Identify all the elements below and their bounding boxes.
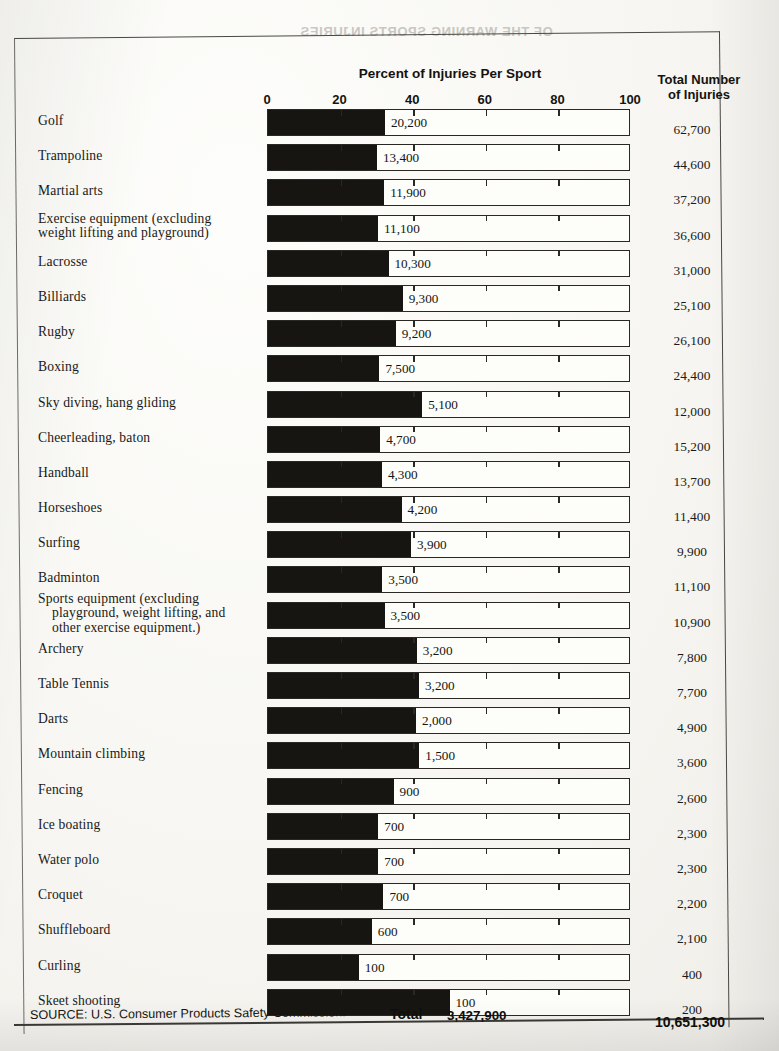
grid-tick [341,109,342,116]
total-injuries-value: 11,100 [632,579,752,595]
chart-row: Mountain climbing1,5003,600 [0,741,779,776]
category-label: Curling [38,959,253,974]
bar-fill [268,110,385,135]
grid-tick [486,531,487,538]
category-label: Table Tennis [38,677,253,692]
category-label: Horseshoes [38,501,253,516]
grid-tick [486,250,487,257]
percent-column-header: Percent of Injuries Per Sport [268,66,632,81]
category-label-line: playground, weight lifting, and [38,606,253,621]
total-header-line1: Total Number [634,72,764,87]
grid-tick [486,461,487,468]
chart-row: Fencing9002,600 [0,777,779,812]
bar-fill [268,743,419,768]
grid-tick [558,637,559,644]
grid-tick [341,426,342,433]
bar-value-label: 4,200 [408,502,438,518]
total-injuries-value: 11,400 [632,509,752,525]
bar-fill [268,638,417,663]
category-label-line: Badminton [38,571,253,586]
total-row-label: Total [390,1006,422,1022]
chart-row: Martial arts11,90037,200 [0,178,779,213]
grid-tick [413,989,414,996]
bar-track: 9,200 [267,320,630,347]
bar-fill [268,356,379,381]
bar-value-label: 3,200 [423,643,453,659]
total-injuries-value: 2,300 [632,826,752,842]
grid-tick [558,778,559,785]
category-label: Martial arts [38,184,253,199]
grid-tick [413,954,414,961]
chart-rows: Golf20,20062,700Trampoline13,40044,600Ma… [0,108,779,1023]
total-percent-injuries-value: 3,427,900 [447,1008,507,1023]
grid-tick [413,637,414,644]
bar-value-label: 20,200 [391,115,427,131]
grid-tick [486,989,487,996]
bar-fill [268,849,378,874]
grid-tick [558,672,559,679]
bar-fill [268,884,383,909]
chart-row: Golf20,20062,700 [0,108,779,143]
total-injuries-value: 3,600 [632,755,752,771]
total-injuries-value: 12,000 [632,404,752,420]
x-axis-tick-40: 40 [405,92,419,107]
grid-tick [486,496,487,503]
bar-fill [268,567,382,592]
category-label-line: Shuffleboard [38,923,253,938]
grid-tick [341,461,342,468]
grid-tick [558,426,559,433]
grid-tick [486,566,487,573]
chart-row: Exercise equipment (excludingweight lift… [0,214,779,249]
bar-value-label: 3,900 [417,537,447,553]
category-label-line: Sports equipment (excluding [38,592,253,607]
grid-tick [341,215,342,222]
bar-fill [268,392,422,417]
grid-tick [558,918,559,925]
grid-tick [341,707,342,714]
grid-tick [558,320,559,327]
bar-fill [268,251,389,276]
grid-tick [558,883,559,890]
total-injuries-value: 44,600 [632,157,752,173]
category-label-line: Ice boating [38,818,253,833]
bar-fill [268,321,396,346]
grid-tick [341,144,342,151]
category-label: Billiards [38,290,253,305]
bar-track: 4,300 [267,461,630,488]
grid-tick [558,461,559,468]
bar-value-label: 11,100 [384,221,420,237]
grid-tick [558,954,559,961]
category-label-line: Archery [38,642,253,657]
grid-tick [341,848,342,855]
chart-row: Sports equipment (excludingplayground, w… [0,601,779,636]
bar-track: 11,100 [267,215,630,242]
grid-tick [341,355,342,362]
grid-tick [341,566,342,573]
bar-value-label: 900 [400,784,420,800]
bar-fill [268,919,372,944]
total-injuries-value: 7,700 [632,685,752,701]
bar-fill [268,779,394,804]
bleed-through-text: OF THE WARNING SPORTS INJURIES [300,24,553,39]
x-axis-tick-0: 0 [263,92,270,107]
chart-row: Shuffleboard6002,100 [0,917,779,952]
chart-row: Horseshoes4,20011,400 [0,495,779,530]
total-injuries-value: 62,700 [632,122,752,138]
bar-track: 700 [267,813,630,840]
total-injuries-value: 26,100 [632,333,752,349]
bar-track: 7,500 [267,355,630,382]
grid-tick [413,707,414,714]
category-label: Fencing [38,783,253,798]
chart-row: Rugby9,20026,100 [0,319,779,354]
bar-fill [268,427,380,452]
category-label-line: Billiards [38,290,253,305]
grid-tick [341,391,342,398]
grid-tick [558,144,559,151]
x-axis-tick-100: 100 [619,92,641,107]
bar-value-label: 2,000 [422,713,452,729]
bar-fill [268,462,382,487]
category-label-line: Mountain climbing [38,747,253,762]
total-injuries-value: 25,100 [632,298,752,314]
category-label: Mountain climbing [38,747,253,762]
grid-tick [413,672,414,679]
